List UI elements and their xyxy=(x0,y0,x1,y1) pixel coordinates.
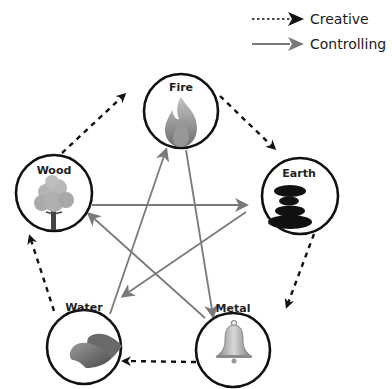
node-earth: Earth xyxy=(262,158,338,234)
arrowhead-icon xyxy=(288,37,304,51)
metal-label: Metal xyxy=(216,302,251,315)
node-wood: Wood xyxy=(16,155,92,231)
controlling-arrows xyxy=(89,150,246,318)
arrow-fire-to-earth xyxy=(220,96,274,148)
arrow-metal-to-wood xyxy=(89,214,205,318)
legend-controlling-label: Controlling xyxy=(310,36,386,52)
legend: Creative Controlling xyxy=(252,11,386,52)
node-metal: Metal xyxy=(196,302,270,387)
five-elements-diagram: Creative Controlling Fire Earth xyxy=(0,0,392,389)
fire-label: Fire xyxy=(169,81,193,94)
wood-label: Wood xyxy=(37,164,72,177)
legend-controlling: Controlling xyxy=(252,36,386,52)
arrow-water-to-wood xyxy=(30,237,54,311)
arrow-earth-to-metal xyxy=(287,234,314,306)
arrow-wood-to-fire xyxy=(62,95,124,153)
arrow-water-to-fire xyxy=(110,150,166,314)
arrow-metal-to-water xyxy=(124,361,196,362)
node-fire: Fire xyxy=(144,74,218,148)
arrowhead-icon xyxy=(288,12,304,26)
water-label: Water xyxy=(65,301,103,314)
arrow-fire-to-metal xyxy=(186,150,213,316)
earth-label: Earth xyxy=(282,167,315,180)
legend-creative: Creative xyxy=(252,11,369,27)
legend-creative-label: Creative xyxy=(310,11,369,27)
